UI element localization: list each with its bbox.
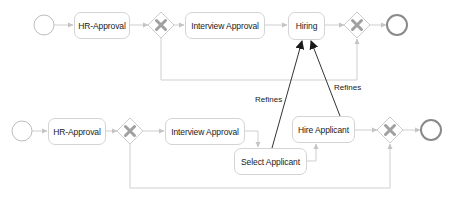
refines-label: Refines bbox=[334, 83, 361, 92]
task-hiring[interactable]: Hiring bbox=[288, 12, 325, 40]
task-select-applicant[interactable]: Select Applicant bbox=[234, 148, 307, 175]
task-label: Interview Approval bbox=[171, 127, 239, 137]
task-label: Interview Approval bbox=[191, 21, 259, 31]
refines-label: Refines bbox=[255, 95, 282, 104]
exclusive-gateway[interactable] bbox=[148, 12, 174, 38]
task-label: HR-Approval bbox=[78, 21, 126, 31]
task-interview-approval[interactable]: Interview Approval bbox=[185, 12, 265, 39]
task-interview-approval[interactable]: Interview Approval bbox=[165, 118, 245, 145]
task-hr-approval[interactable]: HR-Approval bbox=[48, 118, 106, 145]
exclusive-gateway[interactable] bbox=[344, 12, 370, 38]
task-hire-applicant[interactable]: Hire Applicant bbox=[292, 116, 355, 143]
exclusive-gateway[interactable] bbox=[377, 117, 403, 143]
start-event[interactable] bbox=[12, 121, 32, 141]
sequence-flow[interactable] bbox=[245, 131, 258, 147]
task-label: Select Applicant bbox=[241, 157, 300, 167]
task-label: Hire Applicant bbox=[298, 125, 349, 135]
task-label: HR-Approval bbox=[53, 127, 101, 137]
refines-arrow[interactable] bbox=[311, 41, 340, 116]
sequence-flow[interactable] bbox=[307, 144, 316, 161]
end-event[interactable] bbox=[387, 15, 407, 35]
task-hr-approval[interactable]: HR-Approval bbox=[74, 12, 130, 39]
sequence-flow-skip[interactable] bbox=[161, 38, 357, 80]
task-label: Hiring bbox=[296, 21, 318, 31]
exclusive-gateway[interactable] bbox=[117, 118, 143, 144]
start-event[interactable] bbox=[34, 15, 54, 35]
end-event[interactable] bbox=[421, 120, 441, 140]
